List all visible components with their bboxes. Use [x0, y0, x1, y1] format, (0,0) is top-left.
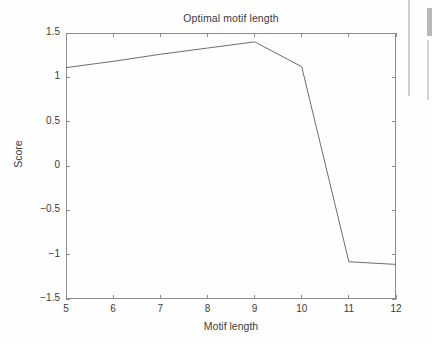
y-axis-tick-right: [392, 121, 396, 122]
data-line-series: [66, 33, 396, 299]
x-tick-label: 8: [192, 303, 222, 314]
x-axis-tick: [160, 295, 161, 299]
y-tick-label: 0: [26, 159, 60, 170]
y-tick-label: 0.5: [26, 115, 60, 126]
x-tick-label: 9: [240, 303, 270, 314]
y-axis-tick-right: [392, 254, 396, 255]
x-axis-tick: [207, 295, 208, 299]
x-axis-tick-top: [254, 33, 255, 37]
y-axis-tick: [66, 210, 70, 211]
x-axis-tick-top: [301, 33, 302, 37]
y-axis-tick: [66, 33, 70, 34]
x-tick-label: 11: [334, 303, 364, 314]
x-axis-tick: [348, 295, 349, 299]
chart-title: Optimal motif length: [66, 12, 396, 24]
y-axis-tick: [66, 77, 70, 78]
x-tick-label: 10: [287, 303, 317, 314]
y-axis-tick-right: [392, 77, 396, 78]
y-axis-tick-right: [392, 166, 396, 167]
y-axis-tick: [66, 166, 70, 167]
x-axis-tick-top: [396, 33, 397, 37]
x-axis-tick-top: [160, 33, 161, 37]
y-axis-tick-right: [392, 210, 396, 211]
x-axis-tick-top: [66, 33, 67, 37]
x-tick-label: 12: [381, 303, 411, 314]
scan-edge-artifact: [408, 0, 410, 96]
y-axis-label: Score: [12, 124, 24, 184]
y-axis-tick-right: [392, 33, 396, 34]
x-tick-label: 5: [51, 303, 81, 314]
x-axis-tick-top: [113, 33, 114, 37]
y-tick-label: 1: [26, 70, 60, 81]
y-axis-tick: [66, 299, 70, 300]
x-axis-label: Motif length: [66, 320, 396, 332]
x-axis-tick: [301, 295, 302, 299]
y-axis-tick: [66, 121, 70, 122]
x-tick-label: 7: [145, 303, 175, 314]
y-tick-label: 1.5: [26, 26, 60, 37]
y-axis-tick-right: [392, 299, 396, 300]
y-tick-label: −1: [26, 248, 60, 259]
x-axis-tick-top: [348, 33, 349, 37]
y-tick-label: −1.5: [26, 292, 60, 303]
figure-canvas: Optimal motif length 56789101112−1.5−1−0…: [0, 0, 433, 344]
x-tick-label: 6: [98, 303, 128, 314]
x-axis-tick: [254, 295, 255, 299]
y-axis-tick: [66, 254, 70, 255]
scan-edge-artifact: [427, 40, 429, 100]
y-tick-label: −0.5: [26, 203, 60, 214]
x-axis-tick-top: [207, 33, 208, 37]
x-axis-tick: [113, 295, 114, 299]
scan-edge-artifact: [427, 8, 432, 36]
